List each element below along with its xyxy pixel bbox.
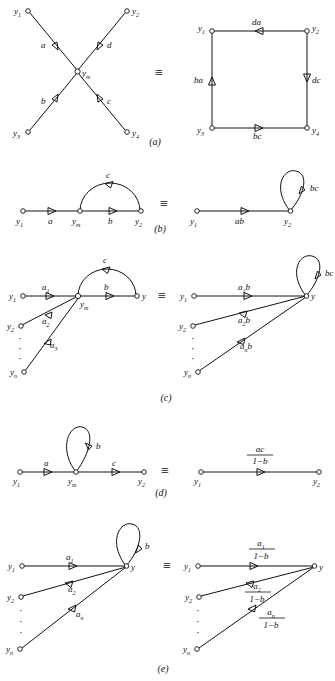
edge-label-b-a: a: [48, 216, 53, 226]
node-label-y2-square: y2: [311, 23, 319, 35]
panel-a-left-graph: y1 y2 y3 y4 ym a d b c: [12, 6, 139, 140]
edge-label-da: da: [252, 17, 262, 27]
node-c-r-yn: [196, 370, 201, 375]
node-label-y4: y4: [131, 128, 139, 140]
panel-d: y1 ym y2 a c b ≡ y1 y2 ac 1−b (d): [12, 427, 321, 499]
panel-b: y1 ym y2 a b c ≡ y1 y2 ab bc (b): [15, 170, 319, 235]
node-e-yn: [18, 647, 23, 652]
edge-d-selfloop-b: [67, 427, 90, 472]
panel-b-left-graph: y1 ym y2 a b c: [15, 170, 143, 228]
node-d-y2: [142, 470, 147, 475]
node-label-d-ym: ym: [67, 476, 77, 488]
edge-label-b-c: c: [106, 170, 110, 180]
edge-label-c-b: b: [104, 282, 109, 292]
node-label-d-y1: y1: [12, 476, 20, 488]
panel-a: y1 y2 y3 y4 ym a d b c ≡ y1: [12, 6, 321, 148]
node-y1-square: [210, 29, 215, 34]
edge-ym-y4: [78, 73, 125, 130]
edge-label-c: c: [107, 96, 111, 106]
vertical-dots-c-right-3: ·: [191, 352, 195, 364]
node-c-y1: [21, 294, 26, 299]
panel-label-b: (b): [154, 223, 166, 235]
node-label-b-r-y2: y2: [283, 216, 291, 228]
edge-label-c-a3: a3: [50, 340, 58, 352]
node-label-e-y: y: [130, 562, 135, 572]
node-label-c-y: y: [141, 291, 146, 301]
equiv-symbol-b: ≡: [160, 196, 168, 211]
node-label-e-r-yn: yn: [182, 644, 190, 656]
node-label-ym: ym: [81, 68, 91, 80]
node-label-c-y1: y1: [8, 291, 16, 303]
edge-c-a3: [25, 297, 79, 371]
node-c-y2: [19, 324, 24, 329]
edge-label-e-an: an: [76, 609, 84, 621]
edge-label-b-b: b: [108, 216, 113, 226]
node-d-ym: [74, 470, 79, 475]
node-label-d-r-y2: y2: [312, 476, 320, 488]
node-e-r-y: [312, 564, 317, 569]
node-label-b-y2: y2: [134, 216, 142, 228]
edge-label-b-ab: ab: [235, 216, 245, 226]
edge-label-bc: bc: [253, 131, 262, 141]
arrowhead-e-b: [136, 545, 143, 553]
node-label-y1-square: y1: [197, 23, 205, 35]
node-e-r-yn: [195, 647, 200, 652]
arrowhead-c: [97, 94, 103, 102]
node-label-y3-square: y3: [196, 125, 204, 137]
node-label-y3: y3: [12, 128, 20, 140]
node-e-y: [124, 564, 129, 569]
panel-e-right-graph: y1 y2 yn y a1 1−b a2 1−b an 1−b · · ·: [182, 538, 323, 656]
edge-label-d-c: c: [112, 458, 116, 468]
panel-c: y1 y2 yn ym y a1 b c a2 a3 · · · ≡: [6, 255, 334, 404]
node-y2: [125, 9, 130, 14]
edge-label-b: b: [41, 96, 46, 106]
node-label-e-yn: yn: [5, 644, 13, 656]
node-d-r-y2: [317, 470, 322, 475]
panel-e: y1 y2 yn y a1 a2 an b · · · ≡ y1 y2: [5, 524, 323, 675]
vertical-dots-e-left-3: ·: [19, 626, 23, 638]
node-label-d-y2: y2: [137, 476, 145, 488]
edge-label-e-r-an-den: 1−b: [263, 620, 279, 630]
panel-b-right-graph: y1 y2 ab bc: [189, 171, 319, 228]
edge-label-ba: ba: [194, 75, 204, 85]
figure-canvas: y1 y2 y3 y4 ym a d b c ≡ y1: [0, 0, 335, 681]
panel-c-left-graph: y1 y2 yn ym y a1 b c a2 a3 · · ·: [6, 255, 146, 379]
node-label-c-r-yn: yn: [183, 367, 191, 379]
node-e-y1: [20, 564, 25, 569]
edge-ym-y1: [30, 13, 77, 70]
node-label-y2: y2: [131, 6, 139, 18]
panel-e-left-graph: y1 y2 yn y a1 a2 an b · · ·: [5, 524, 150, 656]
edge-label-e-r-an-num: an: [267, 607, 275, 619]
node-ym: [75, 69, 80, 74]
node-b-y2: [139, 209, 144, 214]
node-label-b-r-y1: y1: [189, 216, 197, 228]
panel-label-e: (e): [157, 663, 169, 675]
edge-label-c-a2: a2: [42, 316, 50, 328]
panel-label-d: (d): [155, 487, 167, 499]
node-c-y: [135, 294, 140, 299]
node-y3-square: [210, 126, 215, 131]
node-label-c-y2: y2: [6, 321, 14, 333]
edge-label-a: a: [41, 40, 46, 50]
node-b-r-y1: [195, 209, 200, 214]
node-label-d-r-y1: y1: [193, 476, 201, 488]
vertical-dots-e-right-3: ·: [196, 626, 200, 638]
node-label-c-ym: ym: [79, 299, 89, 311]
edge-label-c-c: c: [103, 255, 107, 265]
node-e-r-y1: [196, 564, 201, 569]
node-label-y1: y1: [13, 6, 21, 18]
edge-label-e-b: b: [145, 541, 150, 551]
edge-c-r-a2b: [195, 296, 306, 325]
edge-e-an: [22, 567, 126, 648]
vertical-dots-c-left-3: ·: [18, 352, 22, 364]
arrowhead-e-r-an: [248, 605, 256, 612]
edge-label-d: d: [107, 40, 112, 50]
node-c-ym: [75, 293, 80, 298]
node-b-y1: [21, 209, 26, 214]
node-c-yn: [22, 370, 27, 375]
arrowhead-b: [52, 94, 58, 102]
panel-c-right-graph: y1 y2 yn y a1b a2b anb bc · · ·: [178, 256, 334, 379]
panel-label-c: (c): [160, 392, 172, 404]
edge-label-c-r-a1b: a1b: [238, 282, 251, 294]
node-d-y1: [18, 470, 23, 475]
